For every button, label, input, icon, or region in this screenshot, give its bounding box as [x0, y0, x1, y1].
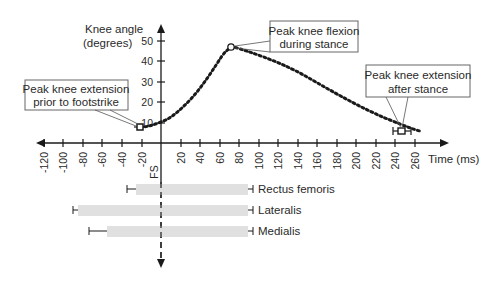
- x-tick-label: 100: [253, 152, 265, 170]
- x-tick-label: 200: [350, 152, 362, 170]
- x-tick-label: 20: [175, 152, 187, 164]
- y-tick-labels: 50 40 30 20 10: [141, 35, 153, 129]
- callout-pre-line2: prior to footstrike: [33, 96, 119, 108]
- x-tick-label: 180: [331, 152, 343, 170]
- x-tick-label: 240: [389, 152, 401, 170]
- muscle-label-lateralis: Lateralis: [258, 204, 302, 216]
- x-tick-label: 120: [272, 152, 284, 170]
- muscle-label-rectus: Rectus femoris: [258, 183, 335, 195]
- x-tick-label: 140: [292, 152, 304, 170]
- x-tick-label: 160: [311, 152, 323, 170]
- y-axis-label-line2: (degrees): [83, 37, 132, 49]
- callout-peak-flexion: Peak knee flexion during stance: [235, 21, 359, 52]
- muscle-bar-medialis: Medialis: [89, 225, 300, 237]
- callout-pre-footstrike: Peak knee extension prior to footstrike: [23, 80, 138, 126]
- y-axis-arrow-icon: [157, 24, 165, 33]
- peak-flexion-marker: [228, 44, 234, 50]
- x-tick-label: 80: [233, 152, 245, 164]
- callout-pre-line1: Peak knee extension: [23, 83, 130, 95]
- callout-post-line2: after stance: [388, 83, 448, 95]
- down-arrow-icon: [157, 259, 165, 268]
- x-tick-label: -40: [116, 152, 128, 167]
- x-axis-label: Time (ms): [428, 153, 479, 165]
- x-tick-label: -80: [77, 152, 89, 167]
- y-axis-label-line1: Knee angle: [85, 23, 143, 35]
- callout-peak-line1: Peak knee flexion: [269, 25, 360, 37]
- callout-post-line1: Peak knee extension: [365, 69, 472, 81]
- callout-post-stance: Peak knee extension after stance: [365, 65, 472, 128]
- x-tick-label: -20: [136, 152, 148, 167]
- callout-peak-line2: during stance: [279, 38, 348, 50]
- x-axis-right-arrow-icon: [440, 139, 449, 147]
- x-tick-labels: -120 -100 -80 -60 -40 -20 20 40 60 80 10…: [38, 152, 421, 179]
- y-tick-label: 30: [141, 76, 153, 88]
- origin-label: FS: [148, 165, 160, 178]
- muscle-label-medialis: Medialis: [258, 225, 300, 237]
- x-tick-label: -100: [57, 152, 69, 173]
- x-tick-label: 40: [194, 152, 206, 164]
- x-tick-label: -120: [38, 152, 50, 173]
- knee-angle-chart: Knee angle (degrees) 50 40 30 20 10: [0, 0, 494, 283]
- muscle-bar-lateralis: Lateralis: [73, 204, 302, 216]
- y-tick-label: 50: [141, 35, 153, 47]
- y-tick-label: 20: [141, 96, 153, 108]
- muscle-bar-rectus-femoris: Rectus femoris: [127, 183, 335, 195]
- y-tick-label: 40: [141, 55, 153, 67]
- x-tick-label: 260: [409, 152, 421, 170]
- x-tick-label: -60: [96, 152, 108, 167]
- x-tick-label: 220: [370, 152, 382, 170]
- x-tick-label: 60: [214, 152, 226, 164]
